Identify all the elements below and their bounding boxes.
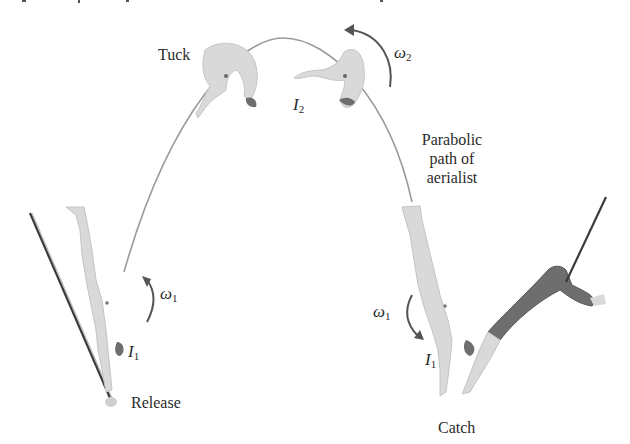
aerialist-catch-figure bbox=[402, 206, 474, 396]
tuck-label: Tuck bbox=[158, 45, 190, 64]
omega-symbol: ω bbox=[394, 43, 406, 62]
right-trapeze-rope bbox=[566, 197, 606, 282]
omega-right-label: ω1 bbox=[373, 302, 391, 326]
omega1-right-arrow bbox=[407, 295, 424, 340]
omega-subscript: 2 bbox=[406, 51, 412, 63]
path-label-line-3: aerialist bbox=[408, 168, 496, 187]
path-label-line-1: Parabolic bbox=[408, 130, 496, 149]
inertia-subscript: 2 bbox=[299, 103, 305, 115]
inertia-right-label: I1 bbox=[425, 350, 436, 374]
parabolic-path bbox=[124, 38, 412, 272]
release-label: Release bbox=[131, 393, 181, 412]
omega-symbol: ω bbox=[160, 284, 172, 303]
inertia-subscript: 1 bbox=[431, 358, 437, 370]
omega-left-label: ω1 bbox=[160, 284, 178, 308]
inertia-top-label: I2 bbox=[293, 95, 304, 119]
parabolic-path-label: Parabolic path of aerialist bbox=[408, 130, 496, 187]
aerialist-tuck-rotating-figure bbox=[294, 49, 364, 107]
path-label-line-2: path of bbox=[408, 149, 496, 168]
diagram-stage: Tuck I2 ω2 Parabolic path of aerialist ω… bbox=[0, 0, 630, 444]
inertia-subscript: 1 bbox=[134, 350, 140, 362]
inertia-left-label: I1 bbox=[128, 342, 139, 366]
aerialist-tuck-figure bbox=[196, 43, 257, 118]
catch-label: Catch bbox=[438, 418, 475, 437]
diagram-canvas bbox=[0, 0, 630, 444]
catcher-figure bbox=[462, 266, 606, 394]
cropped-caption-fragment bbox=[22, 0, 383, 3]
omega-subscript: 1 bbox=[172, 292, 178, 304]
omega-subscript: 1 bbox=[385, 310, 391, 322]
omega-symbol: ω bbox=[373, 302, 385, 321]
omega-top-label: ω2 bbox=[394, 43, 412, 67]
omega1-left-arrow bbox=[142, 276, 154, 322]
